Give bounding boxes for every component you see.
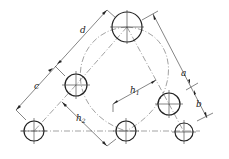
label-d: d bbox=[80, 25, 86, 35]
dimension-h1: h1 bbox=[113, 80, 156, 112]
hole-pattern-drawing: d c a b h1 h2 bbox=[0, 0, 229, 159]
hole-right-mid bbox=[155, 90, 183, 118]
hole-bottom-center bbox=[113, 118, 139, 144]
center-lines bbox=[20, 27, 200, 132]
label-b: b bbox=[196, 99, 202, 109]
label-c: c bbox=[34, 81, 39, 91]
hole-top bbox=[110, 10, 144, 44]
label-h1: h1 bbox=[130, 85, 140, 96]
label-a: a bbox=[181, 68, 186, 78]
dimension-h2: h2 bbox=[62, 102, 116, 146]
dimension-d-c: d c bbox=[16, 10, 116, 120]
label-h2: h2 bbox=[76, 113, 86, 124]
dimension-a-b: a b bbox=[142, 11, 213, 121]
holes bbox=[21, 10, 196, 144]
hole-bottom-right bbox=[172, 120, 196, 144]
hole-bottom-left bbox=[21, 118, 47, 144]
hole-left-mid bbox=[62, 71, 90, 99]
